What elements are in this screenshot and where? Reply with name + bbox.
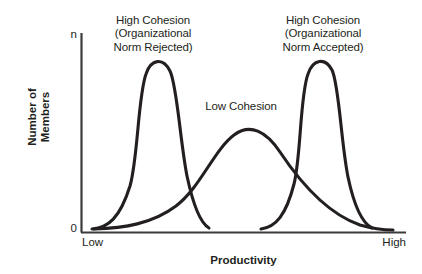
- y-axis-bottom-tick-label: 0: [63, 222, 77, 235]
- x-axis-title: Productivity: [111, 254, 376, 266]
- cohesion-productivity-chart: High Cohesion (Organizational Norm Rejec…: [0, 0, 422, 274]
- curve-high-cohesion-norm-accepted: [261, 61, 372, 229]
- x-axis-left-tick-label: Low: [82, 236, 103, 249]
- annotation-high-cohesion-norm-accepted: High Cohesion (Organizational Norm Accep…: [264, 14, 382, 54]
- y-axis-top-tick-label: n: [63, 28, 77, 41]
- annotation-low-cohesion: Low Cohesion: [186, 100, 296, 113]
- x-axis-right-tick-label: High: [330, 236, 406, 249]
- curve-high-cohesion-norm-rejected: [92, 62, 209, 229]
- annotation-high-cohesion-norm-rejected: High Cohesion (Organizational Norm Rejec…: [94, 14, 212, 54]
- y-axis-title: Number of Members: [26, 72, 52, 162]
